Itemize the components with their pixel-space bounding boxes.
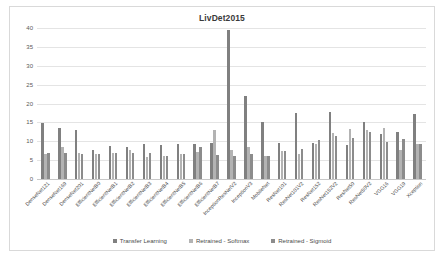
bar xyxy=(335,136,337,179)
bar-group xyxy=(409,28,426,179)
y-axis-tick-label: 15 xyxy=(26,119,33,125)
bars-layer xyxy=(37,28,426,179)
legend-entry[interactable]: Transfer Learning xyxy=(113,238,167,244)
bar-group xyxy=(138,28,155,179)
bar-group xyxy=(54,28,71,179)
bar-group xyxy=(105,28,122,179)
bar xyxy=(386,142,388,179)
bar xyxy=(250,154,252,179)
bar xyxy=(199,147,201,179)
bar-group xyxy=(71,28,88,179)
plot-area xyxy=(37,28,426,179)
bar xyxy=(183,154,185,179)
legend-swatch-icon xyxy=(189,239,193,243)
bar xyxy=(419,144,421,179)
bar-group xyxy=(375,28,392,179)
y-axis-tick-label: 10 xyxy=(26,138,33,144)
bar-group xyxy=(155,28,172,179)
bar xyxy=(216,155,218,179)
y-axis-tick-label: 25 xyxy=(26,82,33,88)
bar xyxy=(149,153,151,179)
bar xyxy=(369,132,371,179)
bar xyxy=(284,151,286,179)
chart-container: LivDet2015 0510152025303540 DenseNet121D… xyxy=(9,6,435,251)
y-axis-tick-label: 40 xyxy=(26,25,33,31)
bar-group xyxy=(257,28,274,179)
bar xyxy=(318,140,320,179)
bar-group xyxy=(88,28,105,179)
bar xyxy=(267,156,269,179)
legend-entry[interactable]: Retrained - Softmax xyxy=(189,238,249,244)
bar-group xyxy=(392,28,409,179)
bar xyxy=(64,153,66,179)
y-axis-tick-label: 20 xyxy=(26,101,33,107)
chart-legend: Transfer LearningRetrained - SoftmaxRetr… xyxy=(10,238,434,244)
bar xyxy=(115,153,117,179)
legend-swatch-icon xyxy=(271,239,275,243)
bar-group xyxy=(206,28,223,179)
bar-group xyxy=(122,28,139,179)
y-axis-tick-label: 5 xyxy=(30,157,33,163)
legend-label: Retrained - Softmax xyxy=(196,238,249,244)
bar xyxy=(301,149,303,179)
x-axis: DenseNet121DenseNet169DenseNet201Efficie… xyxy=(37,179,426,235)
bar-group xyxy=(240,28,257,179)
bar-group xyxy=(341,28,358,179)
bar-group xyxy=(308,28,325,179)
bar xyxy=(233,156,235,179)
bar-group xyxy=(37,28,54,179)
legend-swatch-icon xyxy=(113,239,117,243)
bar-group xyxy=(291,28,308,179)
y-axis-tick-label: 35 xyxy=(26,44,33,50)
bar xyxy=(402,139,404,179)
bar-group xyxy=(223,28,240,179)
bar-group xyxy=(189,28,206,179)
legend-label: Transfer Learning xyxy=(120,238,167,244)
bar-group xyxy=(358,28,375,179)
legend-label: Retrained - Sigmoid xyxy=(278,238,331,244)
bar xyxy=(166,156,168,179)
bar-group xyxy=(325,28,342,179)
bar xyxy=(47,153,49,179)
bar xyxy=(81,154,83,179)
bar xyxy=(352,138,354,179)
chart-title: LivDet2015 xyxy=(10,13,434,23)
legend-entry[interactable]: Retrained - Sigmoid xyxy=(271,238,331,244)
bar-group xyxy=(274,28,291,179)
y-axis-tick-label: 30 xyxy=(26,63,33,69)
y-axis-tick-label: 0 xyxy=(30,176,33,182)
bar-group xyxy=(172,28,189,179)
bar xyxy=(132,153,134,179)
bar xyxy=(98,154,100,179)
y-axis: 0510152025303540 xyxy=(10,28,35,179)
